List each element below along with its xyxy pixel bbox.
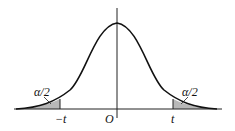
- left-critical-label: −t: [55, 112, 67, 126]
- right-critical-label: t: [171, 112, 175, 126]
- left-tail-label: α/2: [34, 85, 50, 99]
- t-distribution-diagram: α/2 α/2 −t O t: [0, 0, 235, 131]
- origin-label: O: [105, 112, 114, 126]
- right-tail-label: α/2: [182, 85, 198, 99]
